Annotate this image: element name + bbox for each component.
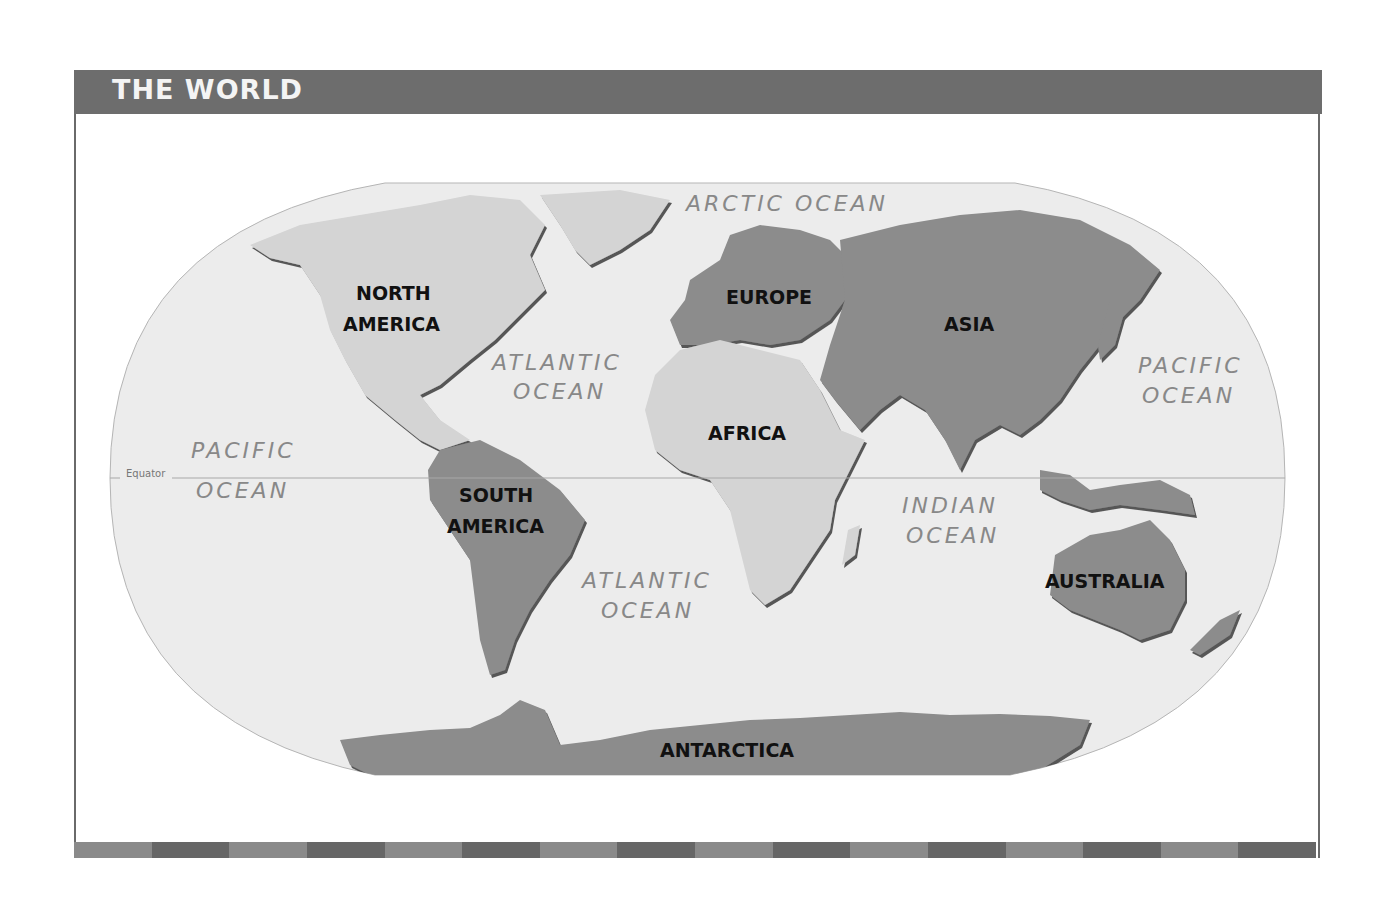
continent-label-australia: AUSTRALIA (1045, 570, 1165, 592)
ocean-label-pacific-west-2: OCEAN (196, 478, 289, 503)
continent-label-south-america-2: AMERICA (447, 515, 544, 537)
world-map: Equator ARCTIC OCEAN ATLANTIC OCEAN ATLA… (0, 0, 1390, 899)
ocean-label-atlantic-north-2: OCEAN (513, 379, 606, 404)
footer-stripe (74, 842, 1316, 858)
continent-label-north-america-2: AMERICA (343, 313, 440, 335)
continent-label-north-america-1: NORTH (356, 282, 431, 304)
continent-label-africa: AFRICA (708, 422, 786, 444)
ocean-label-atlantic-north-1: ATLANTIC (490, 350, 622, 375)
equator-label: Equator (126, 468, 166, 479)
continent-label-asia: ASIA (944, 313, 994, 335)
ocean-label-atlantic-south-2: OCEAN (601, 598, 694, 623)
continent-label-antarctica: ANTARCTICA (660, 739, 794, 761)
ocean-label-arctic: ARCTIC OCEAN (684, 191, 888, 216)
ocean-label-indian-2: OCEAN (906, 523, 999, 548)
ocean-label-pacific-east-2: OCEAN (1142, 383, 1235, 408)
ocean-label-indian-1: INDIAN (902, 493, 998, 518)
continent-label-europe: EUROPE (726, 286, 812, 308)
ocean-label-atlantic-south-1: ATLANTIC (580, 568, 712, 593)
continent-label-south-america-1: SOUTH (459, 484, 533, 506)
ocean-label-pacific-east-1: PACIFIC (1138, 353, 1243, 378)
ocean-label-pacific-west-1: PACIFIC (191, 438, 296, 463)
